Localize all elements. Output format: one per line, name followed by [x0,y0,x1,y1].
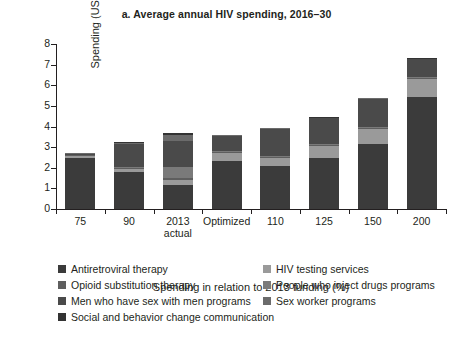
legend-row: Men who have sex with men programsSex wo… [58,293,448,309]
x-tick [251,209,252,214]
bar-segment [309,158,339,209]
bar-segment [212,161,242,209]
legend-swatch-icon [58,265,66,273]
bar-segment [309,146,339,158]
x-category-label: 90 [105,216,154,228]
y-tick-label: 5 [26,100,50,110]
bar-segment [163,141,193,167]
chart-figure: a. Average annual HIV spending, 2016–30 … [0,0,453,343]
bar-segment [358,144,388,209]
legend-label: HIV testing services [276,263,369,275]
x-category-label: 200 [397,216,446,228]
bar-stack[interactable] [358,98,388,209]
bar-stack[interactable] [260,128,290,209]
bar-segment [114,172,144,209]
x-category-label: 2013actual [154,216,203,239]
legend-swatch-icon [263,281,271,289]
bar-segment [358,99,388,127]
legend-label: Antiretroviral therapy [71,263,168,275]
bar-segment [309,118,339,144]
x-tick [154,209,155,214]
x-category-label: 125 [300,216,349,228]
bar-segment [358,129,388,144]
y-tick-label: 3 [26,141,50,151]
bar-segment [260,166,290,209]
bar-stack[interactable] [65,153,95,209]
legend-label: Social and behavior change communication [71,311,274,323]
x-tick [446,209,447,214]
chart-legend: Antiretroviral therapyHIV testing servic… [58,261,448,325]
bar-segment [407,79,437,97]
legend-label: Men who have sex with men programs [71,295,251,307]
bar-series-container [56,44,446,209]
bar-segment [407,97,437,209]
x-category-label: 110 [251,216,300,228]
legend-swatch-icon [58,281,66,289]
legend-label: Opioid substitution therapy [71,279,195,291]
legend-swatch-icon [58,297,66,305]
x-category-label: 75 [56,216,105,228]
legend-item[interactable]: Antiretroviral therapy [58,263,263,275]
legend-label: Sex worker programs [276,295,376,307]
legend-item[interactable]: HIV testing services [263,263,369,275]
x-category-label: 150 [349,216,398,228]
y-tick-label: 2 [26,162,50,172]
legend-item[interactable]: People who inject drugs programs [263,279,435,291]
bar-segment [163,185,193,209]
legend-swatch-icon [58,313,66,321]
bar-segment [407,59,437,77]
y-tick-label: 1 [26,182,50,192]
x-tick [397,209,398,214]
bar-stack[interactable] [114,142,144,209]
x-tick [349,209,350,214]
bar-segment [212,153,242,160]
x-tick [202,209,203,214]
x-tick [300,209,301,214]
legend-swatch-icon [263,265,271,273]
legend-row: Opioid substitution therapyPeople who in… [58,277,448,293]
legend-row: Antiretroviral therapyHIV testing servic… [58,261,448,277]
legend-row: Social and behavior change communication [58,309,448,325]
legend-item[interactable]: Men who have sex with men programs [58,295,263,307]
legend-item[interactable]: Social and behavior change communication [58,311,263,323]
bar-stack[interactable] [407,58,437,209]
bar-stack[interactable] [309,117,339,209]
bar-segment [260,158,290,165]
y-tick-label: 8 [26,38,50,48]
y-tick-label: 4 [26,121,50,131]
x-tick [56,209,57,214]
y-tick-label: 0 [26,203,50,213]
y-tick-label: 7 [26,59,50,69]
chart-title: a. Average annual HIV spending, 2016–30 [0,8,453,20]
bar-segment [114,144,144,167]
legend-item[interactable]: Sex worker programs [263,295,376,307]
bar-stack[interactable] [212,135,242,209]
legend-label: People who inject drugs programs [276,279,435,291]
x-category-label: Optimized [202,216,251,228]
legend-swatch-icon [263,297,271,305]
legend-item[interactable]: Opioid substitution therapy [58,279,263,291]
bar-segment [65,158,95,209]
y-tick-label: 6 [26,79,50,89]
plot-area: Spending (US$, millions) 012345678 75902… [56,44,446,209]
bar-segment [212,136,242,151]
bar-stack[interactable] [163,133,193,209]
bar-segment [163,167,193,178]
x-tick [105,209,106,214]
bar-segment [260,129,290,157]
